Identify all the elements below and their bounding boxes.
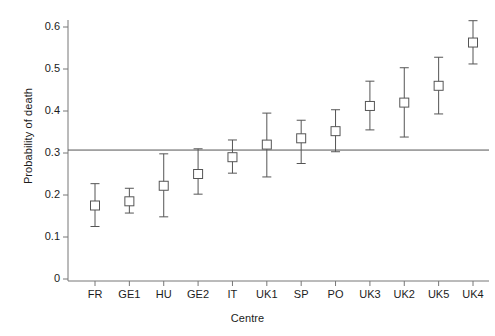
data-point-hu (159, 154, 168, 217)
y-tick-label: 0.2 (26, 188, 60, 200)
y-tick-label: 0.3 (26, 146, 60, 158)
y-tick-label: 0.1 (26, 230, 60, 242)
data-point-uk1 (262, 113, 271, 177)
data-point-uk5 (434, 57, 443, 114)
data-point-po (331, 110, 340, 152)
data-point-ge1 (125, 188, 134, 213)
marker-square (297, 134, 306, 143)
data-points-group (91, 21, 478, 227)
data-point-uk2 (400, 68, 409, 137)
marker-square (262, 140, 271, 149)
plot-axes (63, 20, 489, 286)
chart-figure: Probability of death Centre 00.10.20.30.… (0, 0, 495, 336)
marker-square (194, 170, 203, 179)
marker-square (125, 197, 134, 206)
data-point-fr (91, 184, 100, 227)
marker-square (331, 127, 340, 136)
marker-square (91, 201, 100, 210)
marker-square (365, 101, 374, 110)
data-point-sp (297, 120, 306, 163)
marker-square (228, 153, 237, 162)
y-tick-label: 0.4 (26, 104, 60, 116)
data-point-uk3 (365, 81, 374, 130)
marker-square (434, 81, 443, 90)
data-point-ge2 (194, 149, 203, 194)
marker-square (159, 181, 168, 190)
y-tick-label: 0 (26, 272, 60, 284)
data-point-uk4 (469, 21, 478, 64)
marker-square (469, 38, 478, 47)
x-axis-label: Centre (0, 312, 495, 324)
data-point-it (228, 140, 237, 173)
y-tick-label: 0.5 (26, 62, 60, 74)
marker-square (400, 98, 409, 107)
y-tick-label: 0.6 (26, 20, 60, 32)
scatter-plot-canvas (0, 0, 495, 336)
x-tick-label-uk4: UK4 (443, 288, 495, 300)
